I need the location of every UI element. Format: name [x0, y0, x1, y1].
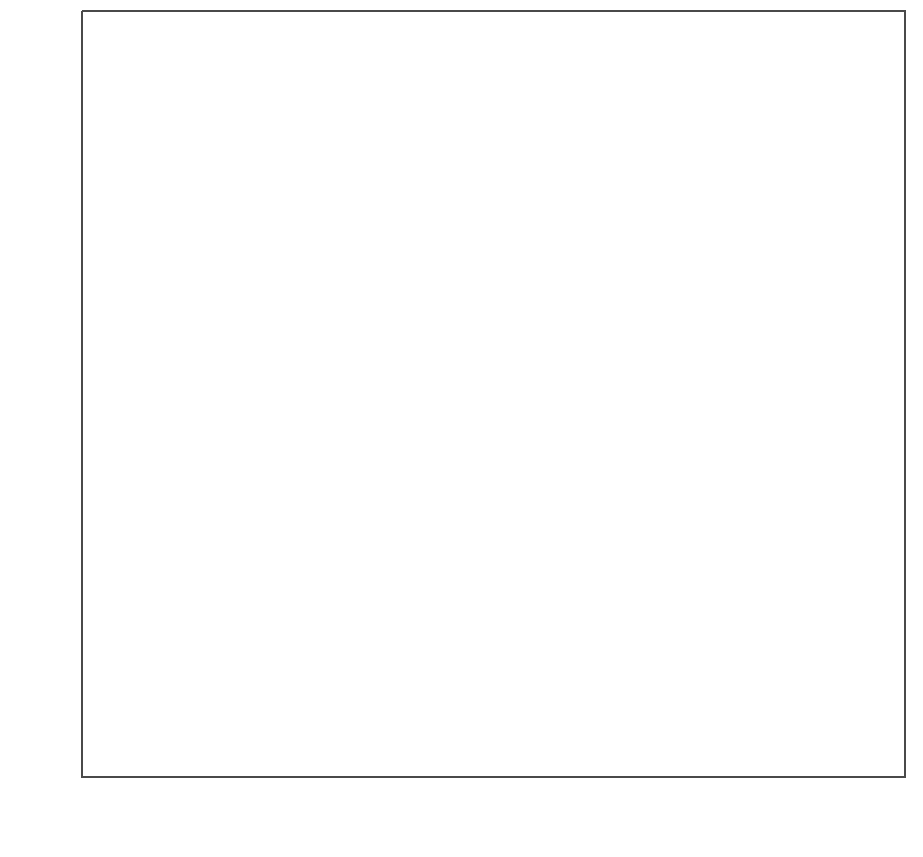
age-vs-year-chart — [0, 0, 923, 857]
chart-background — [0, 0, 923, 857]
chart-figure — [0, 0, 923, 857]
